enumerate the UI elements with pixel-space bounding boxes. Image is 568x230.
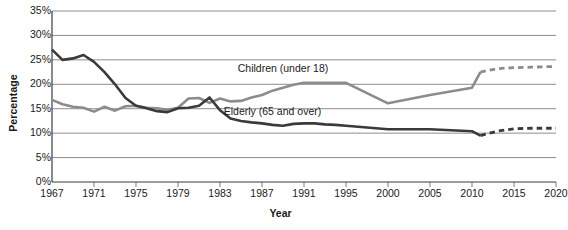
x-tick-label: 1979 bbox=[166, 187, 189, 199]
x-tick-label: 1983 bbox=[208, 187, 231, 199]
x-tick-label: 1967 bbox=[40, 187, 63, 199]
x-tick-label: 2000 bbox=[376, 187, 399, 199]
x-tick-label: 1975 bbox=[124, 187, 147, 199]
x-tick-label: 1987 bbox=[250, 187, 273, 199]
x-tick-label: 2015 bbox=[502, 187, 525, 199]
x-tick-label: 2020 bbox=[544, 187, 567, 199]
x-axis-title: Year bbox=[0, 207, 561, 219]
x-tick-label: 1995 bbox=[334, 187, 357, 199]
x-tick-label: 1971 bbox=[82, 187, 105, 199]
x-tick-label: 1991 bbox=[292, 187, 315, 199]
x-tick-label: 2010 bbox=[460, 187, 483, 199]
x-tick-label: 2005 bbox=[418, 187, 441, 199]
